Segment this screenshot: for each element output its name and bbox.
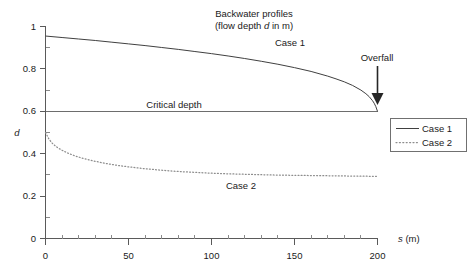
chart-subtitle-close: in m) [269, 20, 293, 31]
backwater-profiles-chart: Backwater profiles (flow depth d in m) 1 [0, 0, 471, 269]
x-tick-label: 50 [123, 250, 134, 261]
y-tick-label: 0.4 [23, 148, 36, 159]
x-tick-label: 200 [370, 250, 386, 261]
chart-legend: Case 1 Case 2 [391, 119, 467, 152]
legend-label-case-1: Case 1 [422, 123, 452, 134]
y-axis-major-ticks [40, 27, 46, 239]
x-axis-label-unit: (m) [403, 233, 420, 244]
y-tick-label: 1 [31, 21, 36, 32]
x-axis-major-ticks [46, 239, 378, 246]
y-axis-label: d [14, 127, 20, 138]
legend-label-case-2: Case 2 [422, 137, 452, 148]
series-case-1 [46, 36, 378, 111]
chart-figure: Backwater profiles (flow depth d in m) 1 [0, 0, 471, 269]
chart-subtitle-open: (flow depth [215, 20, 264, 31]
x-axis-label: s (m) [398, 233, 420, 244]
y-tick-label: 0.8 [23, 63, 36, 74]
y-tick-label: 0 [31, 233, 36, 244]
y-axis-tick-labels: 1 0.8 0.6 0.4 0.2 0 [23, 21, 36, 244]
overfall-annotation: Overfall [361, 52, 394, 63]
chart-title: Backwater profiles [215, 8, 293, 19]
x-axis-tick-labels: 0 50 100 150 200 [43, 250, 386, 261]
case-2-annotation: Case 2 [226, 180, 256, 191]
y-tick-label: 0.6 [23, 105, 36, 116]
x-tick-label: 0 [43, 250, 48, 261]
critical-depth-label: Critical depth [146, 99, 201, 110]
series-case-2-curve [46, 133, 378, 177]
x-tick-label: 150 [287, 250, 303, 261]
x-tick-label: 100 [204, 250, 220, 261]
x-axis-minor-ticks [62, 235, 361, 239]
y-tick-label: 0.2 [23, 190, 36, 201]
chart-subtitle: (flow depth d in m) [215, 20, 293, 31]
case-1-annotation: Case 1 [275, 37, 305, 48]
overfall-arrow-icon [372, 66, 384, 105]
